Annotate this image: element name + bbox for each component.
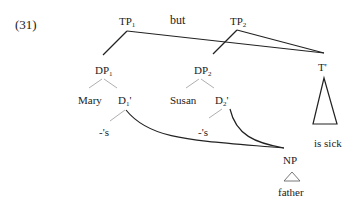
node-tp2-sub: 2 bbox=[243, 21, 247, 29]
node-tp2: TP2 bbox=[230, 16, 246, 29]
branch-dp1-mary bbox=[89, 79, 102, 88]
node-mary: Mary bbox=[78, 95, 102, 106]
tbar-content: is sick bbox=[314, 138, 342, 149]
node-dp1-sub: 1 bbox=[109, 70, 113, 78]
node-d2bar-prime: ' bbox=[226, 94, 228, 106]
node-d2bar-label: D bbox=[215, 94, 223, 106]
branch-tp2-dp2 bbox=[213, 30, 237, 54]
branch-dp2-d2bar bbox=[201, 79, 214, 88]
node-tp1: TP1 bbox=[119, 16, 135, 29]
node-dp2-sub: 2 bbox=[208, 70, 212, 78]
node-tp1-sub: 1 bbox=[132, 21, 136, 29]
np-content: father bbox=[278, 187, 304, 198]
branch-dp2-susan bbox=[186, 79, 199, 88]
node-dp1: DP1 bbox=[95, 65, 113, 78]
branch-tp2-tbar bbox=[237, 30, 324, 53]
node-tbar: T' bbox=[318, 62, 327, 73]
node-dp2-label: DP bbox=[194, 64, 208, 76]
node-d1bar: D1' bbox=[118, 95, 131, 108]
example-number: (31) bbox=[15, 18, 37, 31]
node-dp1-label: DP bbox=[95, 64, 109, 76]
node-d2bar: D2' bbox=[215, 95, 228, 108]
branch-d1bar-poss bbox=[110, 110, 125, 121]
np-triangle bbox=[284, 172, 300, 181]
node-susan: Susan bbox=[170, 95, 196, 106]
node-poss1: -'s bbox=[99, 127, 109, 138]
tbar-triangle bbox=[313, 78, 337, 124]
branch-dp1-d1bar bbox=[104, 79, 117, 88]
node-tp1-label: TP bbox=[119, 15, 132, 27]
node-poss2: -'s bbox=[198, 127, 208, 138]
branch-tp1-dp1 bbox=[103, 31, 127, 55]
node-np: NP bbox=[283, 155, 297, 166]
conjunction-but: but bbox=[170, 14, 185, 26]
branch-d2bar-poss bbox=[209, 109, 222, 118]
node-dp2: DP2 bbox=[194, 65, 212, 78]
node-tp2-label: TP bbox=[230, 15, 243, 27]
node-d1bar-label: D bbox=[118, 94, 126, 106]
node-d1bar-prime: ' bbox=[129, 94, 131, 106]
branch-d2bar-np bbox=[230, 109, 284, 148]
